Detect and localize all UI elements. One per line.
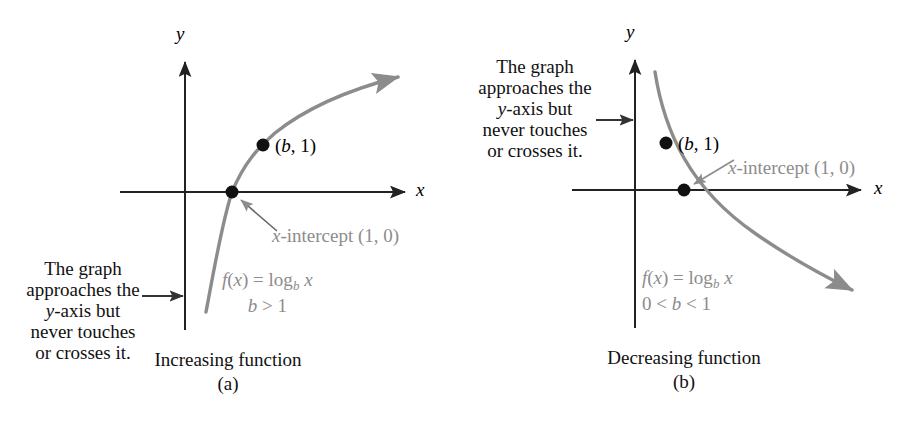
point-b-1-label: (b, 1) [275,136,316,155]
logarithmic-functions-figure: y x (b, 1) x-intercept (1, 0) f(x) = log… [0,0,912,423]
point-b-1-rest: , 1) [291,135,316,156]
log-curve-decreasing [655,72,852,290]
panel-increasing-function: y x (b, 1) x-intercept (1, 0) f(x) = log… [0,0,456,423]
point-b-1 [660,137,673,150]
formula-line-2: b > 1 [222,294,313,318]
x-axis-label: x [874,178,882,197]
panel-b-caption: Decreasing function [456,346,912,370]
x-intercept-label-rest: -intercept (1, 0) [280,225,399,246]
point-b-1-italic: b [281,135,291,156]
point-b-1-italic: b [684,133,694,154]
formula-line-1: f(x) = logb x [642,266,733,292]
point-b-1-label: (b, 1) [678,134,719,153]
formula-line-1: f(x) = logb x [222,268,313,294]
y-axis-label: y [626,22,634,41]
y-axis-label: y [176,24,184,43]
panel-a-caption: Increasing function [0,348,456,372]
x-intercept-label: x-intercept (1, 0) [728,158,855,177]
formula-line-2: 0 < b < 1 [642,292,733,316]
panel-b-caption-sub: (b) [456,370,912,394]
x-intercept-point [226,186,239,199]
x-intercept-label-rest: -intercept (1, 0) [736,157,855,178]
formula-arg: x [304,269,312,290]
panel-decreasing-function: y x (b, 1) x-intercept (1, 0) f(x) = log… [456,0,912,423]
panel-a-caption-sub: (a) [0,372,456,396]
point-b-1 [257,139,270,152]
x-axis-label: x [416,180,424,199]
x-intercept-label: x-intercept (1, 0) [272,226,399,245]
formula-arg: x [724,267,732,288]
asymptote-note: The graph approaches the y-axis but neve… [470,56,600,161]
point-b-1-rest: , 1) [694,133,719,154]
x-intercept-point [678,184,691,197]
formula-base: b [713,276,720,291]
formula-base: b [293,278,300,293]
formula-block: f(x) = logb x 0 < b < 1 [642,266,733,316]
formula-block: f(x) = logb x b > 1 [222,268,313,318]
